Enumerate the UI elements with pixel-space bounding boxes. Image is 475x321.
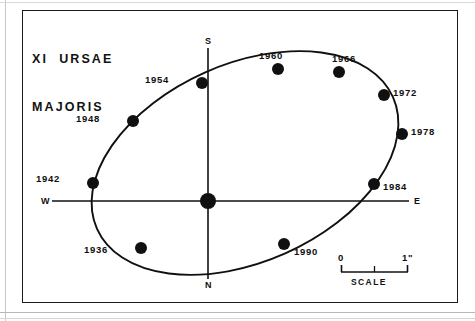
- east-axis-label: E: [414, 196, 420, 206]
- figure-page: XI URSAE MAJORIS W E S N 193619421948195…: [0, 0, 475, 321]
- epoch-marker-1984: [368, 178, 380, 190]
- scale-caption: SCALE: [351, 277, 387, 287]
- epoch-marker-1942: [87, 177, 99, 189]
- epoch-marker-1966: [333, 66, 345, 78]
- epoch-label-1942: 1942: [28, 173, 60, 184]
- epoch-label-1936: 1936: [76, 244, 108, 255]
- west-axis-label: W: [41, 196, 50, 206]
- epoch-label-1960: 1960: [255, 50, 287, 61]
- epoch-label-1966: 1966: [328, 53, 360, 64]
- epoch-marker-1972: [378, 89, 390, 101]
- scale-start-label: 0: [338, 252, 344, 263]
- epoch-label-1978: 1978: [411, 126, 435, 137]
- epoch-label-1948: 1948: [68, 113, 100, 124]
- primary-star-marker: [200, 193, 216, 209]
- page-title: XI URSAE MAJORIS: [32, 19, 113, 147]
- epoch-label-1954: 1954: [137, 74, 169, 85]
- epoch-label-1990: 1990: [294, 246, 318, 257]
- north-axis-label: N: [205, 280, 212, 290]
- scale-bar: [341, 265, 408, 272]
- epoch-marker-1960: [272, 63, 284, 75]
- south-axis-label: S: [205, 36, 211, 46]
- epoch-label-1972: 1972: [393, 87, 417, 98]
- epoch-marker-1936: [135, 242, 147, 254]
- scale-end-label: 1": [402, 252, 413, 263]
- epoch-marker-1990: [278, 238, 290, 250]
- title-line-1: XI URSAE: [32, 51, 113, 67]
- epoch-marker-1954: [196, 77, 208, 89]
- epoch-marker-1948: [127, 115, 139, 127]
- epoch-marker-group: [87, 63, 408, 254]
- epoch-marker-1978: [396, 128, 408, 140]
- epoch-label-1984: 1984: [383, 181, 407, 192]
